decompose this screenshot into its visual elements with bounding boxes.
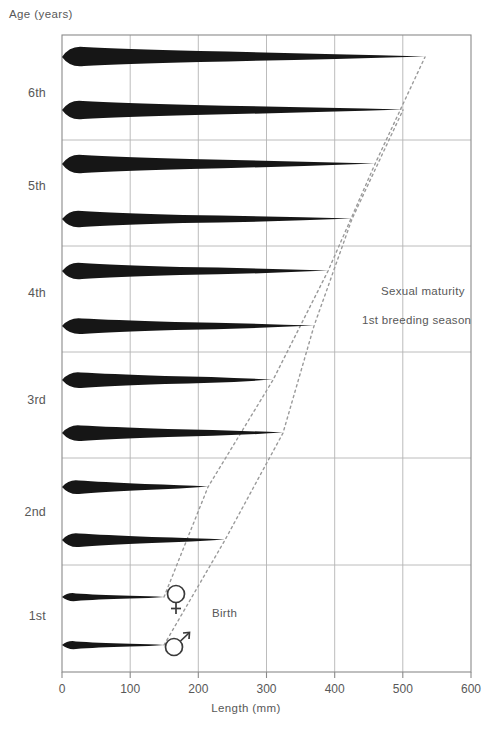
plot-area [0,0,492,731]
y-tick-label-2nd: 2nd [25,505,46,519]
x-tick-label-500: 500 [393,682,413,696]
x-tick-label-200: 200 [188,682,208,696]
x-axis-ticks [62,672,471,678]
fish-1st-female [62,593,164,601]
x-tick-label-0: 0 [59,682,66,696]
x-tick-label-300: 300 [256,682,276,696]
y-tick-label-4th: 4th [28,286,46,300]
fish-3rd-female [62,372,273,388]
y-axis-title: Age (years) [9,8,73,20]
fish-5th-male [62,211,352,228]
fish-5th-female [62,155,375,174]
fish-silhouettes [62,47,425,649]
annotation-sexual-maturity: Sexual maturity [381,285,465,297]
x-tick-label-600: 600 [461,682,481,696]
y-tick-label-1st: 1st [29,609,46,623]
growth-curves [164,57,425,645]
fish-4th-female [62,263,328,280]
fish-2nd-male [62,533,225,547]
y-tick-label-5th: 5th [28,179,46,193]
y-tick-label-3rd: 3rd [27,393,46,407]
fish-3rd-male [62,425,283,441]
vertical-gridlines [130,35,403,672]
fish-6th-male [62,101,403,120]
fish-1st-male [62,641,164,649]
y-tick-label-6th: 6th [28,86,46,100]
x-tick-label-400: 400 [325,682,345,696]
annotation-first-breeding-season: 1st breeding season [362,314,471,326]
growth-chart-figure: Age (years) [0,0,492,731]
fish-4th-male [62,318,314,334]
male-symbol-icon [166,633,190,656]
x-axis-title: Length (mm) [0,702,492,714]
annotation-birth: Birth [212,607,237,619]
female-symbol-icon [168,586,185,615]
x-tick-label-100: 100 [120,682,140,696]
fish-6th-female [62,47,425,67]
fish-2nd-female [62,480,208,494]
